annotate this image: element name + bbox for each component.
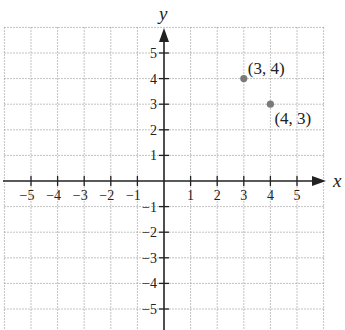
x-tick-label: −3 xyxy=(73,188,88,203)
point-label: (3, 4) xyxy=(248,59,285,78)
data-point xyxy=(267,101,274,108)
x-tick-label: −5 xyxy=(20,188,35,203)
x-axis-label: x xyxy=(332,170,342,191)
y-tick-label: 2 xyxy=(150,123,157,138)
x-tick-label: 3 xyxy=(240,188,247,203)
y-tick-label: 1 xyxy=(150,148,157,163)
axes: xy xyxy=(3,3,342,330)
x-tick-label: 5 xyxy=(294,188,301,203)
point-label: (4, 3) xyxy=(274,109,311,128)
y-tick-label: 4 xyxy=(150,72,157,87)
x-tick-label: −1 xyxy=(126,188,141,203)
data-points: (3, 4)(4, 3) xyxy=(240,59,311,129)
y-axis-arrow-icon xyxy=(159,28,169,42)
y-tick-label: −1 xyxy=(142,200,157,215)
y-axis-label: y xyxy=(157,3,168,24)
y-tick-label: −3 xyxy=(142,251,157,266)
coordinate-plane: xy −5−4−3−2−11234554321−1−2−3−4−5 (3, 4)… xyxy=(0,0,345,330)
y-tick-label: −2 xyxy=(142,225,157,240)
y-tick-label: −4 xyxy=(142,276,157,291)
x-tick-label: 4 xyxy=(267,188,274,203)
y-tick-label: 5 xyxy=(150,46,157,61)
x-tick-label: −2 xyxy=(99,188,114,203)
x-tick-label: −4 xyxy=(46,188,61,203)
y-tick-label: −5 xyxy=(142,302,157,317)
y-tick-label: 3 xyxy=(150,97,157,112)
x-tick-label: 1 xyxy=(187,188,194,203)
data-point xyxy=(240,75,247,82)
x-tick-label: 2 xyxy=(214,188,221,203)
